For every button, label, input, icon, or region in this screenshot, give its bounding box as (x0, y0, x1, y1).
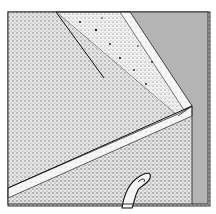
drawer-illustration (0, 0, 216, 214)
